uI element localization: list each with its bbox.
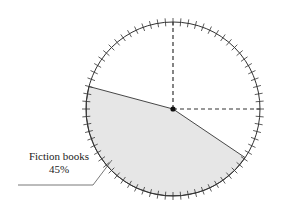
- center-point: [170, 106, 175, 111]
- pie-diagram: [0, 0, 284, 213]
- fiction-sector: [86, 86, 245, 196]
- sector-label-percent: 45%: [14, 163, 104, 176]
- sector-label-name: Fiction books: [14, 150, 104, 163]
- sector-label: Fiction books 45%: [14, 150, 104, 176]
